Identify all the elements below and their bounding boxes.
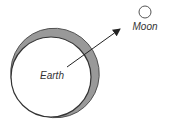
- moon: Moon: [132, 6, 157, 32]
- earth: Earth: [11, 37, 91, 117]
- earth-moon-diagram: Earth Moon: [0, 0, 173, 128]
- moon-label: Moon: [132, 21, 157, 32]
- earth-label: Earth: [40, 70, 64, 81]
